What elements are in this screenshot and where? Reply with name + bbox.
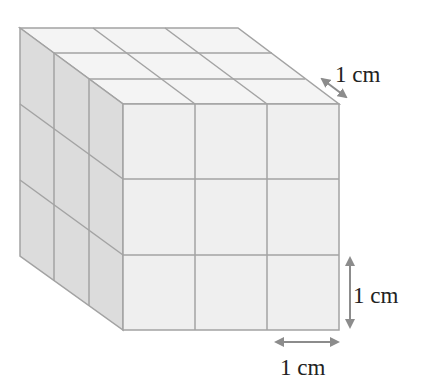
width-label: 1 cm	[280, 355, 325, 380]
depth-label: 1 cm	[335, 62, 380, 87]
cube-diagram: 1 cm 1 cm 1 cm	[0, 0, 433, 383]
height-label: 1 cm	[353, 283, 398, 308]
front-face	[123, 104, 339, 330]
